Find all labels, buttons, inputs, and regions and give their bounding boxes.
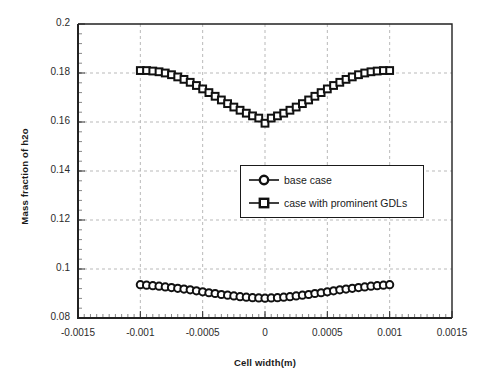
- legend-item-base-case: base case: [248, 169, 332, 191]
- x-tick-label: 0.001: [355, 327, 425, 338]
- y-tick-label: 0.08: [22, 311, 70, 322]
- x-tick-label: -0.001: [105, 327, 175, 338]
- legend-label-base-case: base case: [284, 174, 332, 186]
- y-tick-label: 0.2: [22, 17, 70, 28]
- legend-marker-circle-icon: [248, 173, 280, 187]
- legend-item-gdl-case: case with prominent GDLs: [248, 192, 407, 214]
- chart-figure: Mass fraction of h2o Cell width(m) 0.080…: [0, 0, 489, 384]
- x-tick-label: 0.0005: [292, 327, 362, 338]
- y-tick-label: 0.18: [22, 66, 70, 77]
- x-tick-label: 0.0015: [417, 327, 487, 338]
- chart-legend: base case case with prominent GDLs: [240, 165, 424, 218]
- x-tick-label: 0: [230, 327, 300, 338]
- legend-marker-square-icon: [248, 196, 280, 210]
- y-tick-label: 0.12: [22, 213, 70, 224]
- y-tick-label: 0.1: [22, 262, 70, 273]
- x-tick-label: -0.0015: [43, 327, 113, 338]
- y-tick-label: 0.14: [22, 164, 70, 175]
- x-tick-label: -0.0005: [168, 327, 238, 338]
- y-tick-label: 0.16: [22, 115, 70, 126]
- legend-label-gdl-case: case with prominent GDLs: [284, 197, 407, 209]
